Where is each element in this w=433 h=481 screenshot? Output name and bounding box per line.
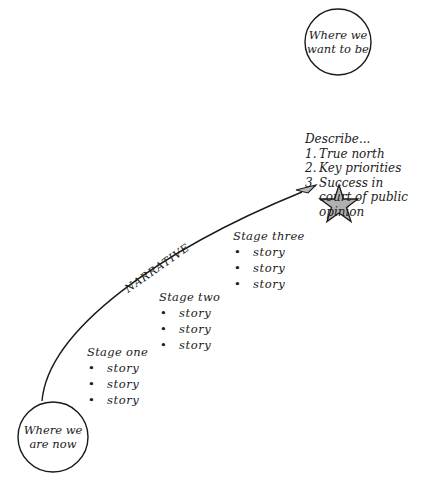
start-circle-line2: are now	[18, 437, 88, 451]
describe-item: 2. Key priorities	[305, 161, 408, 176]
describe-item-number: 1.	[305, 147, 319, 162]
start-circle-line1: Where we	[18, 423, 88, 437]
narrative-label: NARRATIVE	[121, 241, 192, 296]
story-item: story	[87, 360, 148, 376]
describe-item-text: Key priorities	[319, 161, 401, 176]
stage-title: Stage three	[233, 228, 305, 244]
describe-item-number: 3.	[305, 176, 319, 220]
story-item: story	[233, 244, 305, 260]
describe-item-line: court of public	[319, 190, 408, 205]
story-item: story	[233, 276, 305, 292]
stage-three: Stage three story story story	[233, 228, 305, 292]
describe-item-text: Success in court of public opinion	[319, 176, 408, 220]
story-item: story	[87, 376, 148, 392]
stage-title: Stage two	[159, 289, 220, 305]
story-item: story	[233, 260, 305, 276]
story-item: story	[159, 321, 220, 337]
story-item: story	[87, 392, 148, 408]
describe-item-line: Success in	[319, 176, 408, 191]
story-list: story story story	[87, 360, 148, 408]
describe-item: 3. Success in court of public opinion	[305, 176, 408, 220]
stage-title: Stage one	[87, 344, 148, 360]
describe-item-text: True north	[319, 147, 385, 162]
stage-one: Stage one story story story	[87, 344, 148, 408]
story-list: story story story	[159, 305, 220, 353]
describe-item-line: opinion	[319, 205, 408, 220]
story-item: story	[159, 337, 220, 353]
goal-circle-label: Where we want to be	[305, 28, 371, 56]
goal-circle-line1: Where we	[305, 28, 371, 42]
diagram-canvas: NARRATIVE	[0, 0, 433, 481]
story-list: story story story	[233, 244, 305, 292]
describe-item-number: 2.	[305, 161, 319, 176]
stage-two: Stage two story story story	[159, 289, 220, 353]
story-item: story	[159, 305, 220, 321]
describe-block: Describe... 1. True north 2. Key priorit…	[305, 132, 408, 219]
describe-heading: Describe...	[305, 132, 408, 147]
goal-circle-line2: want to be	[305, 42, 371, 56]
describe-item: 1. True north	[305, 147, 408, 162]
start-circle-label: Where we are now	[18, 423, 88, 451]
